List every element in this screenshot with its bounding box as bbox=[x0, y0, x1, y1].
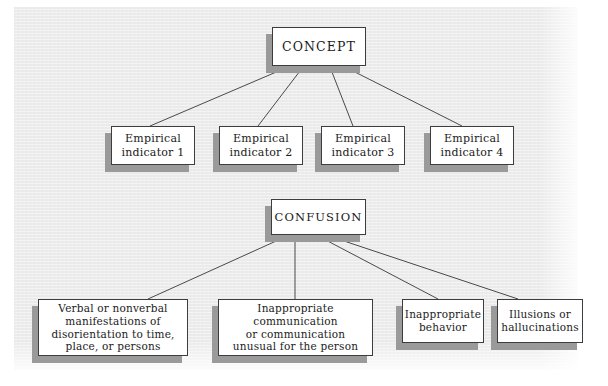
empirical-indicator-4-box[interactable]: Empiricalindicator 4 bbox=[430, 126, 514, 165]
empirical-indicator-3-box[interactable]: Empiricalindicator 3 bbox=[321, 126, 405, 165]
empirical-indicator-2-box[interactable]: Empiricalindicator 2 bbox=[219, 126, 303, 165]
diagram-figure: CONCEPT Empiricalindicator 1 Empiricalin… bbox=[0, 0, 608, 386]
confusion-indicator-3-label: Inappropriatebehavior bbox=[405, 308, 481, 334]
confusion-box-label: CONFUSION bbox=[275, 210, 363, 224]
confusion-indicator-1-label: Verbal or nonverbalmanifestations ofdiso… bbox=[51, 302, 174, 353]
confusion-indicator-2-box[interactable]: Inappropriate communicationor communicat… bbox=[218, 299, 373, 356]
empirical-indicator-3-label: Empiricalindicator 3 bbox=[332, 132, 395, 159]
empirical-indicator-4-label: Empiricalindicator 4 bbox=[441, 132, 504, 159]
empirical-indicator-1-box[interactable]: Empiricalindicator 1 bbox=[111, 126, 195, 165]
confusion-indicator-4-label: Illusions orhallucinations bbox=[501, 308, 579, 334]
concept-box[interactable]: CONCEPT bbox=[272, 27, 366, 66]
concept-box-label: CONCEPT bbox=[282, 39, 356, 54]
confusion-indicator-3-box[interactable]: Inappropriatebehavior bbox=[402, 299, 484, 343]
confusion-indicator-4-box[interactable]: Illusions orhallucinations bbox=[497, 299, 583, 343]
empirical-indicator-2-label: Empiricalindicator 2 bbox=[230, 132, 293, 159]
confusion-indicator-1-box[interactable]: Verbal or nonverbalmanifestations ofdiso… bbox=[38, 299, 188, 356]
confusion-indicator-2-label: Inappropriate communicationor communicat… bbox=[219, 302, 372, 353]
empirical-indicator-1-label: Empiricalindicator 1 bbox=[122, 132, 185, 159]
confusion-box[interactable]: CONFUSION bbox=[271, 199, 366, 235]
